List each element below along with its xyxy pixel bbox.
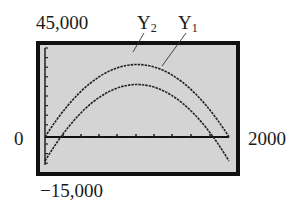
calculator-graph [0, 0, 305, 209]
